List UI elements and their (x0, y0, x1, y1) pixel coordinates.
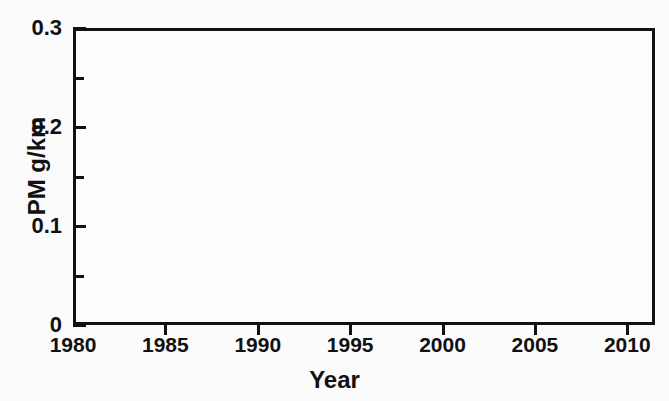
x-tick-label-2005: 2005 (512, 334, 559, 355)
y-axis-title: PM g/km (23, 66, 51, 266)
x-tick-label-1985: 1985 (142, 334, 189, 355)
y-tick-minor-0.25 (73, 77, 84, 80)
x-tick-label-1990: 1990 (234, 334, 281, 355)
x-tick-label-2010: 2010 (604, 334, 651, 355)
y-tick-label-0.3: 0.3 (0, 17, 62, 39)
x-tick-label-1980: 1980 (50, 334, 97, 355)
plot-frame (73, 28, 655, 325)
x-tick-label-1995: 1995 (327, 334, 374, 355)
y-tick-0.1 (73, 225, 86, 228)
x-axis-title: Year (0, 366, 669, 394)
y-tick-0 (73, 324, 86, 327)
y-tick-0.3 (73, 27, 86, 30)
x-tick-label-2000: 2000 (419, 334, 466, 355)
chart-figure: 00.10.20.3 1980198519901995200020052010 … (0, 0, 669, 401)
y-tick-0.2 (73, 126, 86, 129)
y-tick-minor-0.05 (73, 275, 84, 278)
y-tick-minor-0.15 (73, 176, 84, 179)
